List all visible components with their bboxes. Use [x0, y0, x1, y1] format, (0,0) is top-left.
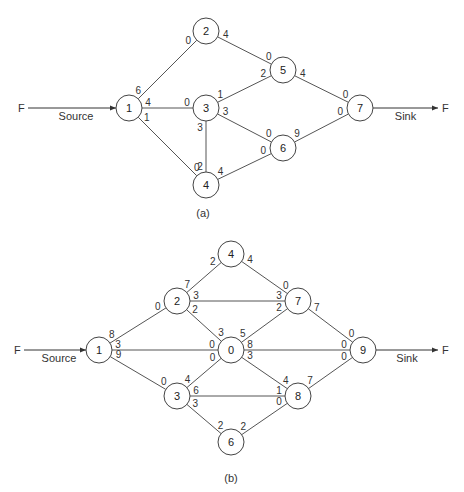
- node-label: 1: [126, 102, 132, 114]
- capacity-label: 0: [266, 128, 272, 139]
- node-label: 8: [295, 390, 301, 402]
- capacity-label: 7: [185, 279, 191, 290]
- edge-6-8: [242, 403, 288, 434]
- capacity-label: 0: [341, 351, 347, 362]
- edge-4-7: [242, 261, 288, 293]
- network-diagram-b: 80309072332340528034406132207070FSourceS…: [14, 241, 449, 484]
- node-label: 7: [295, 295, 301, 307]
- capacity-label: 5: [240, 328, 246, 339]
- edge-1-2: [138, 40, 197, 99]
- capacity-label: 0: [338, 106, 344, 117]
- node-9: 9: [350, 337, 376, 363]
- node-label: 2: [174, 295, 180, 307]
- node-label: 3: [174, 390, 180, 402]
- source-label: Source: [42, 352, 77, 364]
- capacity-label: 3: [247, 350, 253, 361]
- node-2: 2: [193, 18, 219, 44]
- capacity-label: 7: [314, 302, 320, 313]
- capacity-label: 2: [261, 68, 267, 79]
- edge-8-9: [309, 358, 353, 389]
- capacity-label: 0: [210, 352, 216, 363]
- flow-network-figure: 60401040123032404090FSourceSinkF1234567(…: [0, 0, 464, 492]
- edge-5-7: [295, 76, 349, 102]
- node-6: 6: [270, 135, 296, 161]
- capacity-label: 0: [266, 51, 272, 62]
- capacity-label: 0: [155, 301, 161, 312]
- node-label: 5: [280, 64, 286, 76]
- node-label: 4: [203, 179, 209, 191]
- node-1: 1: [116, 95, 142, 121]
- capacity-label: 3: [197, 122, 203, 133]
- capacity-label: 8: [109, 329, 115, 340]
- node-2: 2: [164, 288, 190, 314]
- capacity-label: 4: [283, 375, 289, 386]
- capacity-label: 2: [210, 256, 216, 267]
- capacity-label: 2: [276, 302, 282, 313]
- capacity-label: 9: [116, 349, 122, 360]
- node-label: 3: [203, 102, 209, 114]
- capacity-label: 2: [240, 421, 246, 432]
- node-label: 0: [228, 344, 234, 356]
- capacity-label: 4: [218, 166, 224, 177]
- capacity-label: 3: [193, 290, 199, 301]
- capacity-label: 0: [209, 339, 215, 350]
- node-6: 6: [218, 429, 244, 455]
- node-label: 4: [228, 248, 234, 260]
- node-4: 4: [193, 172, 219, 198]
- capacity-label: 7: [307, 375, 313, 386]
- capacity-label: 2: [192, 304, 198, 315]
- node-3: 3: [193, 95, 219, 121]
- flow-out-label: F: [442, 344, 449, 356]
- node-label: 7: [357, 102, 363, 114]
- node-0: 0: [218, 337, 244, 363]
- sink-label: Sink: [396, 352, 418, 364]
- network-diagram-a: 60401040123032404090FSourceSinkF1234567(…: [18, 18, 449, 219]
- node-label: 6: [228, 436, 234, 448]
- capacity-label: 0: [260, 145, 266, 156]
- sink-label: Sink: [395, 110, 417, 122]
- edge-3-5: [218, 76, 272, 102]
- edge-2-4: [187, 263, 221, 293]
- capacity-label: 0: [283, 280, 289, 291]
- capacity-label: 0: [184, 97, 190, 108]
- capacity-label: 3: [115, 339, 121, 350]
- capacity-label: 0: [349, 328, 355, 339]
- node-label: 6: [280, 142, 286, 154]
- sink-arrow: SinkF: [373, 102, 449, 122]
- capacity-label: 0: [343, 89, 349, 100]
- capacity-label: 0: [276, 396, 282, 407]
- edge-3-0: [187, 358, 221, 387]
- flow-out-label: F: [442, 102, 449, 114]
- capacity-label: 3: [193, 398, 199, 409]
- capacity-label: 0: [161, 376, 167, 387]
- node-label: 2: [203, 25, 209, 37]
- source-arrow: FSource: [18, 102, 116, 122]
- node-1: 1: [86, 337, 112, 363]
- sink-arrow: SinkF: [376, 344, 449, 364]
- edges: 60401040123032404090: [135, 29, 348, 180]
- capacity-label: 6: [193, 385, 199, 396]
- edge-0-7: [241, 309, 287, 343]
- node-7: 7: [285, 288, 311, 314]
- capacity-label: 2: [218, 420, 224, 431]
- edge-3-6: [218, 114, 272, 142]
- capacity-label: 3: [276, 290, 282, 301]
- capacity-label: 4: [223, 29, 229, 40]
- node-7: 7: [347, 95, 373, 121]
- edge-4-6: [218, 154, 272, 180]
- node-3: 3: [164, 383, 190, 409]
- source-label: Source: [59, 110, 94, 122]
- node-5: 5: [270, 57, 296, 83]
- flow-in-label: F: [18, 102, 25, 114]
- nodes: 124709386: [86, 241, 376, 455]
- node-8: 8: [285, 383, 311, 409]
- flow-in-label: F: [14, 344, 21, 356]
- edge-7-9: [308, 309, 352, 342]
- capacity-label: 1: [144, 112, 150, 123]
- capacity-label: 3: [218, 327, 224, 338]
- edge-1-4: [138, 117, 197, 176]
- source-arrow: FSource: [14, 344, 86, 364]
- capacity-label: 4: [300, 68, 306, 79]
- capacity-label: 4: [247, 254, 253, 265]
- node-label: 1: [96, 344, 102, 356]
